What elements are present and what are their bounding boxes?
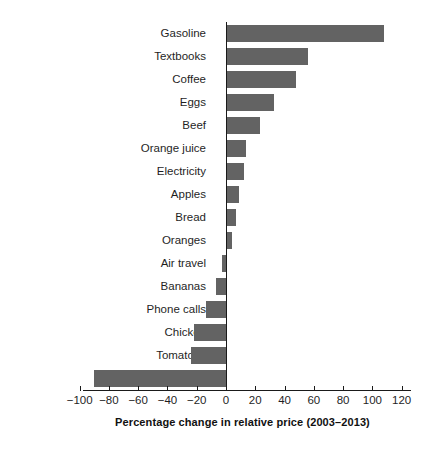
tick-mark <box>372 386 373 391</box>
tick-mark <box>285 386 286 391</box>
tick-mark <box>167 386 168 391</box>
bar-row <box>0 229 429 252</box>
tick-label: 120 <box>382 394 422 406</box>
bar[interactable] <box>226 117 260 134</box>
bar[interactable] <box>94 370 226 387</box>
bar-row <box>0 137 429 160</box>
bar-row <box>0 298 429 321</box>
bar[interactable] <box>206 301 226 318</box>
bar-row <box>0 45 429 68</box>
bar-row <box>0 91 429 114</box>
bar-row <box>0 68 429 91</box>
zero-axis-line <box>226 22 227 390</box>
bar[interactable] <box>226 186 239 203</box>
tick-mark <box>402 386 403 391</box>
tick-mark <box>343 386 344 391</box>
bar-row <box>0 206 429 229</box>
tick-mark <box>109 386 110 391</box>
value-axis: Percentage change in relative price (200… <box>0 390 429 460</box>
bar-row <box>0 114 429 137</box>
axis-title: Percentage change in relative price (200… <box>0 416 429 428</box>
bar[interactable] <box>194 324 226 341</box>
bar-row <box>0 321 429 344</box>
tick-mark <box>80 386 81 391</box>
bar-chart: GasolineTextbooksCoffeeEggsBeefOrange ju… <box>0 0 429 460</box>
bar-row <box>0 344 429 367</box>
bar-row <box>0 367 429 390</box>
tick-mark <box>197 386 198 391</box>
tick-mark <box>255 386 256 391</box>
bar[interactable] <box>226 163 244 180</box>
bar[interactable] <box>226 71 296 88</box>
bar-row <box>0 183 429 206</box>
tick-mark <box>138 386 139 391</box>
bar-row <box>0 22 429 45</box>
bar[interactable] <box>191 347 226 364</box>
bar[interactable] <box>226 140 246 157</box>
bar-row <box>0 252 429 275</box>
tick-mark <box>314 386 315 391</box>
bar-row <box>0 160 429 183</box>
axis-line <box>83 390 411 391</box>
bar[interactable] <box>226 48 308 65</box>
bar[interactable] <box>226 25 384 42</box>
bar[interactable] <box>226 209 236 226</box>
tick-mark <box>226 386 227 391</box>
plot-area <box>0 22 429 390</box>
bar-row <box>0 275 429 298</box>
bar[interactable] <box>226 94 274 111</box>
bar[interactable] <box>216 278 226 295</box>
